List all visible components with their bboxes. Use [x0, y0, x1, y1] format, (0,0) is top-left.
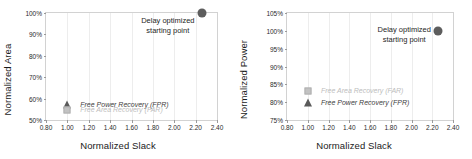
x-tick-label: 2.20: [189, 124, 202, 131]
y-tick-mark: [44, 77, 47, 78]
y-tick-mark: [44, 13, 47, 14]
x-tick-mark: [89, 120, 90, 123]
series-label-free-area-recovery: Free Area Recovery (FAR): [321, 87, 403, 95]
x-tick-label: 1.00: [301, 124, 314, 131]
y-tick-label: 60%: [29, 95, 42, 102]
y-tick-mark: [285, 13, 288, 14]
x-tick-mark: [432, 120, 433, 123]
x-gridline: [196, 13, 197, 120]
annotation-line-1: Delay optimized: [378, 25, 431, 35]
y-tick-label: 70%: [29, 74, 42, 81]
x-tick-mark: [308, 120, 309, 123]
y-tick-label: 100%: [266, 27, 283, 34]
y-tick-label: 100%: [25, 10, 42, 17]
annotation-line-1: Delay optimized: [141, 16, 194, 26]
plot-area-right: 0.801.001.201.401.601.802.002.202.4075%8…: [286, 12, 454, 121]
data-point-circle: [198, 9, 207, 18]
y-tick-label: 105%: [266, 10, 283, 17]
x-tick-label: 1.40: [343, 124, 356, 131]
y-tick-label: 50%: [29, 117, 42, 124]
x-tick-mark: [391, 120, 392, 123]
x-tick-label: 2.40: [447, 124, 460, 131]
y-tick-label: 75%: [270, 117, 283, 124]
panel-normalized-power: Normalized Power 0.801.001.201.401.601.8…: [236, 0, 472, 159]
x-tick-mark: [110, 120, 111, 123]
x-tick-label: 1.60: [125, 124, 138, 131]
data-point-triangle: [304, 98, 312, 106]
annotation-delay-optimized: Delay optimizedstarting point: [378, 25, 431, 44]
y-tick-mark: [285, 49, 288, 50]
x-tick-label: 1.40: [104, 124, 117, 131]
y-tick-label: 90%: [29, 31, 42, 38]
x-tick-label: 2.00: [405, 124, 418, 131]
x-tick-mark: [412, 120, 413, 123]
x-tick-mark: [217, 120, 218, 123]
y-axis-title-right: Normalized Power: [236, 0, 250, 159]
annotation-delay-optimized: Delay optimizedstarting point: [141, 16, 194, 35]
x-tick-label: 2.40: [211, 124, 224, 131]
x-tick-label: 1.80: [384, 124, 397, 131]
y-tick-mark: [44, 56, 47, 57]
x-tick-label: 2.00: [168, 124, 181, 131]
y-tick-label: 80%: [270, 99, 283, 106]
x-tick-mark: [329, 120, 330, 123]
x-tick-label: 1.60: [364, 124, 377, 131]
y-axis-title-left: Normalized Area: [0, 0, 14, 159]
annotation-line-2: starting point: [141, 26, 194, 36]
x-tick-mark: [196, 120, 197, 123]
x-tick-label: 2.20: [426, 124, 439, 131]
panel-normalized-area: Normalized Area 0.801.001.201.401.601.80…: [0, 0, 236, 159]
plot-area-left: 0.801.001.201.401.601.802.002.202.4050%6…: [45, 12, 218, 121]
x-axis-title-right: Normalized Slack: [236, 140, 472, 151]
x-tick-mark: [67, 120, 68, 123]
data-point-square: [64, 107, 71, 114]
x-tick-mark: [349, 120, 350, 123]
y-tick-label: 85%: [270, 81, 283, 88]
x-tick-label: 1.20: [82, 124, 95, 131]
y-tick-label: 80%: [29, 52, 42, 59]
x-tick-mark: [174, 120, 175, 123]
x-tick-label: 1.00: [61, 124, 74, 131]
y-tick-label: 95%: [270, 45, 283, 52]
data-point-circle: [434, 26, 443, 35]
x-tick-mark: [46, 120, 47, 123]
y-tick-mark: [285, 67, 288, 68]
y-tick-mark: [285, 84, 288, 85]
y-tick-mark: [44, 99, 47, 100]
x-tick-label: 0.80: [281, 124, 294, 131]
y-tick-mark: [44, 120, 47, 121]
x-tick-mark: [132, 120, 133, 123]
x-axis-title-left: Normalized Slack: [0, 140, 236, 151]
figure-two-scatter-panels: Normalized Area 0.801.001.201.401.601.80…: [0, 0, 472, 159]
x-tick-label: 1.80: [147, 124, 160, 131]
y-tick-mark: [285, 31, 288, 32]
x-tick-label: 1.20: [322, 124, 335, 131]
y-tick-mark: [44, 34, 47, 35]
y-tick-mark: [285, 102, 288, 103]
series-label-free-power-recovery: Free Power Recovery (FPR): [321, 99, 409, 107]
data-point-square: [304, 88, 311, 95]
series-label-free-area-recovery: Free Area Recovery (FAR): [80, 106, 162, 114]
annotation-line-2: starting point: [378, 35, 431, 45]
x-tick-mark: [153, 120, 154, 123]
y-tick-label: 90%: [270, 63, 283, 70]
x-tick-mark: [287, 120, 288, 123]
y-tick-mark: [285, 120, 288, 121]
x-tick-mark: [370, 120, 371, 123]
x-tick-label: 0.80: [40, 124, 53, 131]
x-tick-mark: [453, 120, 454, 123]
